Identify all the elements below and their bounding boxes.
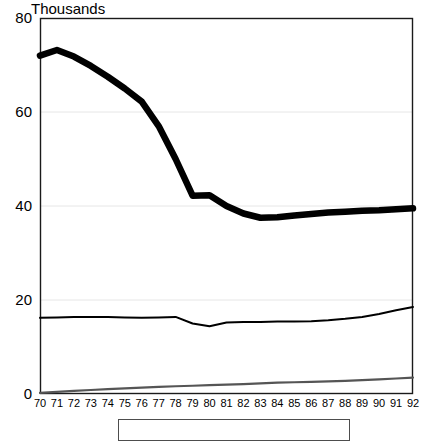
y-tick-label: 0 bbox=[2, 386, 32, 401]
x-tick-label: 87 bbox=[319, 398, 337, 409]
y-tick-label: 60 bbox=[2, 104, 32, 119]
x-tick-label: 78 bbox=[167, 398, 185, 409]
x-tick-label: 71 bbox=[48, 398, 66, 409]
series-line-series-thick bbox=[40, 50, 413, 218]
x-tick-label: 72 bbox=[65, 398, 83, 409]
y-tick-label: 20 bbox=[2, 292, 32, 307]
legend-box bbox=[118, 419, 350, 441]
y-tick-label: 40 bbox=[2, 198, 32, 213]
x-tick-label: 80 bbox=[201, 398, 219, 409]
x-tick-label: 85 bbox=[285, 398, 303, 409]
y-tick-label: 80 bbox=[2, 10, 32, 25]
x-tick-label: 82 bbox=[234, 398, 252, 409]
series-line-series-bottom bbox=[40, 378, 413, 393]
x-tick-label: 70 bbox=[31, 398, 49, 409]
x-tick-label: 76 bbox=[133, 398, 151, 409]
x-tick-label: 74 bbox=[99, 398, 117, 409]
x-tick-label: 86 bbox=[302, 398, 320, 409]
series-line-series-middle bbox=[40, 307, 413, 326]
x-tick-label: 84 bbox=[268, 398, 286, 409]
x-tick-label: 88 bbox=[336, 398, 354, 409]
x-tick-label: 89 bbox=[353, 398, 371, 409]
x-tick-label: 73 bbox=[82, 398, 100, 409]
x-tick-label: 91 bbox=[387, 398, 405, 409]
x-tick-label: 83 bbox=[251, 398, 269, 409]
x-tick-label: 90 bbox=[370, 398, 388, 409]
x-tick-label: 81 bbox=[218, 398, 236, 409]
x-tick-label: 77 bbox=[150, 398, 168, 409]
series-layer bbox=[40, 50, 413, 393]
x-tick-label: 79 bbox=[184, 398, 202, 409]
x-tick-label: 75 bbox=[116, 398, 134, 409]
x-tick-label: 92 bbox=[404, 398, 422, 409]
